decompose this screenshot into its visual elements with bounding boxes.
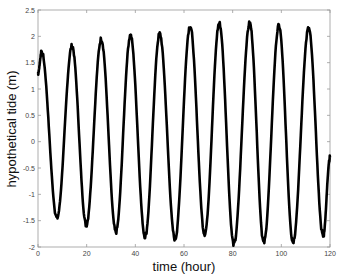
x-tick-label: 0 bbox=[36, 250, 40, 257]
x-tick-label: 120 bbox=[324, 250, 336, 257]
y-tick-label: 1.5 bbox=[25, 59, 35, 66]
x-tick-label: 100 bbox=[275, 250, 287, 257]
x-tick-label: 60 bbox=[180, 250, 188, 257]
x-tick-label: 40 bbox=[131, 250, 139, 257]
x-tick-label: 80 bbox=[229, 250, 237, 257]
y-tick-label: -1 bbox=[29, 191, 35, 198]
y-tick-label: -0.5 bbox=[23, 165, 35, 172]
y-tick-label: 0.5 bbox=[25, 112, 35, 119]
y-tick-label: 0 bbox=[31, 138, 35, 145]
tide-line-chart: -2-1.5-1-0.500.511.522.5 020406080100120… bbox=[0, 0, 342, 279]
y-tick-label: 1 bbox=[31, 86, 35, 93]
y-tick-label: 2 bbox=[31, 33, 35, 40]
y-axis-label: hypothetical tide (m) bbox=[4, 70, 19, 187]
x-axis-label: time (hour) bbox=[153, 259, 216, 274]
y-tick-label: -1.5 bbox=[23, 217, 35, 224]
y-tick-label: 2.5 bbox=[25, 7, 35, 14]
x-tick-label: 20 bbox=[83, 250, 91, 257]
y-tick-label: -2 bbox=[29, 244, 35, 251]
